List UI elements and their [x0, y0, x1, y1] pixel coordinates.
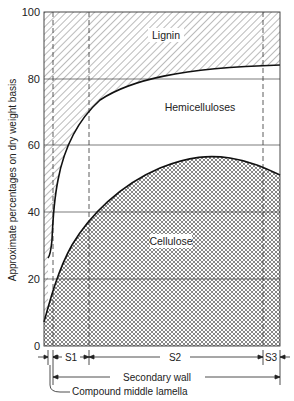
chart: Lignin Hemicelluloses Cellulose 100 80 6… [0, 0, 294, 401]
secondary-wall-label: Secondary wall [123, 372, 191, 383]
lignin-label: Lignin [152, 29, 180, 41]
hemicelluloses-label: Hemicelluloses [165, 101, 236, 113]
s2-label: S2 [169, 352, 182, 363]
y-tick-20: 20 [28, 273, 40, 285]
y-tick-100: 100 [22, 6, 40, 18]
y-tick-40: 40 [28, 206, 40, 218]
y-tick-0: 0 [34, 340, 40, 352]
s3-label: S3 [265, 352, 278, 363]
cellulose-label: Cellulose [149, 235, 192, 247]
y-tick-80: 80 [28, 73, 40, 85]
compound-middle-lamella-label: Compound middle lamella [72, 386, 188, 397]
s1-label: S1 [65, 352, 78, 363]
y-axis-label: Approximate percentages on dry weight ba… [7, 79, 18, 281]
y-tick-60: 60 [28, 139, 40, 151]
